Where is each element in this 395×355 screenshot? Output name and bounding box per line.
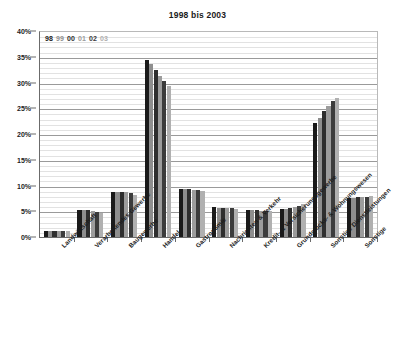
bar-group	[145, 31, 171, 237]
y-tick-label: 10%	[17, 182, 31, 189]
y-tick-mark	[30, 237, 36, 238]
bar-group	[44, 31, 70, 237]
y-tick-label: 40%	[17, 28, 31, 35]
y-tick-mark	[30, 185, 36, 186]
bar	[335, 98, 339, 237]
bar	[200, 191, 204, 237]
y-tick-mark	[30, 31, 36, 32]
bar-chart: 1998 bis 2003 0%5%10%15%20%25%30%35%40% …	[0, 0, 395, 355]
y-tick-label: 35%	[17, 53, 31, 60]
bar-group	[77, 31, 103, 237]
bar	[167, 86, 171, 237]
y-axis: 0%5%10%15%20%25%30%35%40%	[0, 31, 36, 238]
y-tick-mark	[30, 159, 36, 160]
bar-group	[179, 31, 205, 237]
y-tick-mark	[30, 134, 36, 135]
y-tick-mark	[30, 108, 36, 109]
y-tick-mark	[30, 56, 36, 57]
bar-group	[212, 31, 238, 237]
chart-title: 1998 bis 2003	[0, 10, 395, 20]
y-tick-label: 15%	[17, 156, 31, 163]
y-tick-mark	[30, 211, 36, 212]
y-tick-mark	[30, 82, 36, 83]
y-tick-label: 30%	[17, 79, 31, 86]
y-tick-label: 25%	[17, 105, 31, 112]
x-axis: LandwirtschaftVerarbeitendes GewerbeBaug…	[0, 242, 395, 342]
bars-layer	[40, 31, 377, 237]
y-tick-label: 20%	[17, 131, 31, 138]
